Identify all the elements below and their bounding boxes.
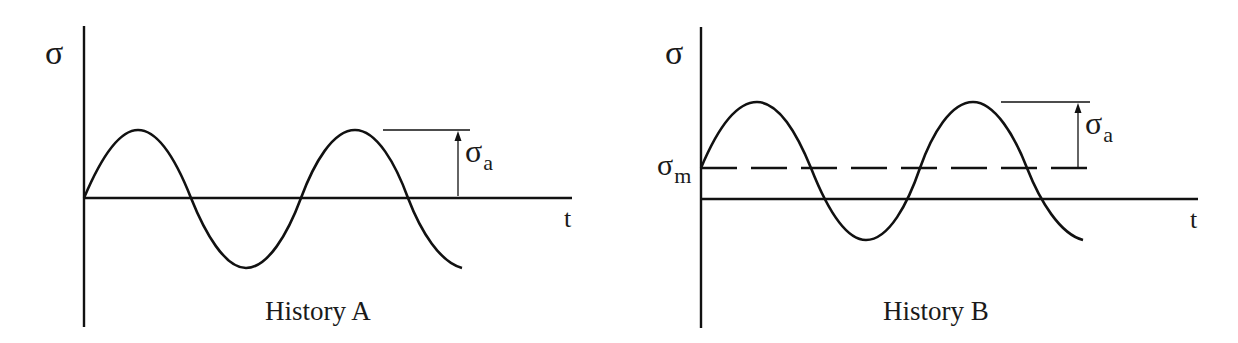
history-b-amplitude-subscript: a [1103,122,1113,147]
history-a-time-axis-label: t [564,206,571,232]
history-b-amplitude-label: σa [1085,107,1113,139]
history-a-amplitude-arrowhead-icon [455,131,462,141]
history-b-amplitude-symbol: σ [1085,105,1102,141]
history-a-sigma-axis-label: σ [45,36,63,70]
history-b-mean-symbol: σ [657,148,673,181]
history-a-amplitude-label: σa [465,135,493,167]
history-b-mean-label: σm [657,150,691,180]
history-a-caption: History A [265,298,371,325]
history-b-amplitude-arrowhead-icon [1075,103,1082,113]
history-b-caption: History B [883,298,989,325]
history-b-sigma-axis-label: σ [665,36,683,70]
history-b-time-axis-label: t [1190,207,1197,233]
history-b-plot [701,27,1198,328]
history-a-amplitude-subscript: a [483,150,493,175]
history-a-amplitude-symbol: σ [465,133,482,169]
history-a-plot [84,26,572,327]
diagram-canvas [0,0,1238,343]
history-b-mean-subscript: m [674,163,691,188]
history-b-sine-curve [701,102,1083,240]
